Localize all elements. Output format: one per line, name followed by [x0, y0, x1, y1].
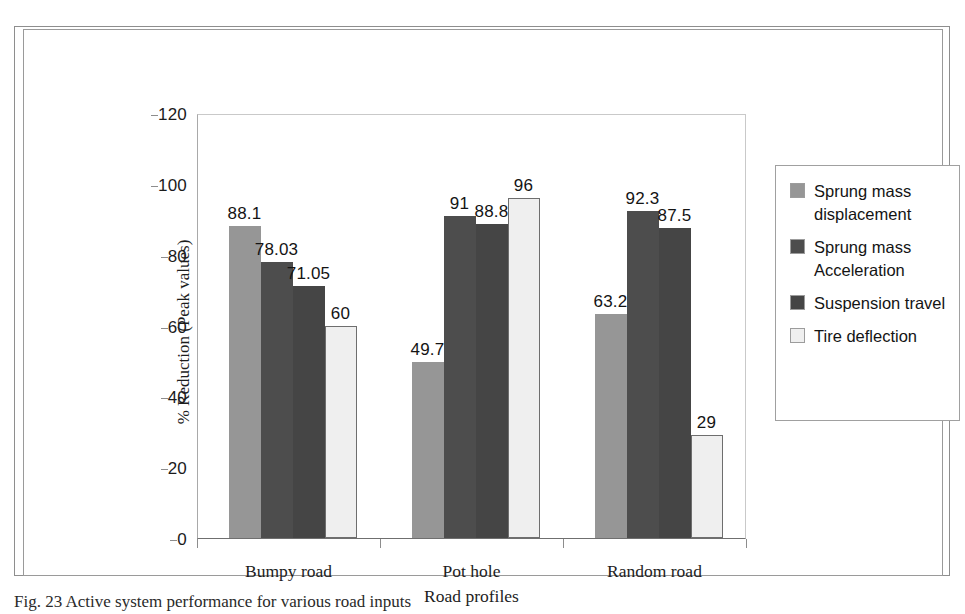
x-axis: Bumpy roadPot holeRandom road: [197, 539, 746, 585]
bar-value-label: 78.03: [255, 240, 299, 260]
legend-label: Sprung mass Acceleration: [814, 236, 949, 282]
legend-swatch-icon: [790, 183, 805, 198]
bar-value-label: 91: [450, 194, 469, 214]
x-axis-tick-mark: [197, 539, 198, 548]
bar-value-label: 71.05: [287, 264, 331, 284]
y-axis-tick-mark: [161, 328, 168, 329]
legend-item: Suspension travel: [790, 292, 949, 315]
bar: 88.1: [229, 226, 261, 538]
bar: 71.05: [293, 286, 325, 538]
bar: 96: [508, 198, 540, 538]
legend-item: Sprung mass displacement: [790, 180, 949, 226]
legend-item: Tire deflection: [790, 325, 949, 348]
bar: 29: [691, 435, 723, 538]
bar-value-label: 88.8: [475, 202, 509, 222]
bar-value-label: 88.1: [228, 204, 262, 224]
y-axis-tick-mark: [161, 257, 168, 258]
x-axis-tick-mark: [746, 539, 747, 548]
bar-value-label: 29: [697, 413, 716, 433]
y-axis-tick-label: 100: [158, 176, 198, 196]
x-axis-category-label: Pot hole: [443, 561, 501, 582]
y-axis-tick-label: 60: [168, 318, 198, 338]
y-axis-tick-label: 80: [168, 247, 198, 267]
bar-chart: % Reduction (Peak values) 02040608010012…: [54, 62, 959, 602]
y-axis-tick-mark: [151, 115, 158, 116]
x-axis-category-label: Random road: [607, 561, 702, 582]
y-axis-tick-mark: [151, 186, 158, 187]
legend-swatch-icon: [790, 239, 805, 254]
legend-label: Tire deflection: [814, 325, 917, 348]
bar-value-label: 92.3: [626, 189, 660, 209]
bar-value-label: 63.2: [594, 292, 628, 312]
y-axis-tick-mark: [161, 469, 168, 470]
legend-swatch-icon: [790, 328, 805, 343]
figure-caption: Fig. 23 Active system performance for va…: [14, 592, 954, 612]
y-axis-tick-label: 40: [168, 388, 198, 408]
bar: 78.03: [261, 262, 293, 538]
bar: 87.5: [659, 228, 691, 538]
chart-legend: Sprung mass displacementSprung mass Acce…: [775, 165, 960, 421]
figure-inner-border: % Reduction (Peak values) 02040608010012…: [23, 29, 943, 576]
legend-swatch-icon: [790, 295, 805, 310]
bar-value-label: 60: [331, 304, 350, 324]
bar: 92.3: [627, 211, 659, 538]
y-axis-tick-label: 0: [177, 530, 198, 550]
x-axis-tick-mark: [380, 539, 381, 548]
bar-value-label: 96: [514, 176, 533, 196]
bar: 88.8: [476, 224, 508, 539]
y-axis-tick-label: 120: [158, 105, 198, 125]
bar-value-label: 49.7: [411, 340, 445, 360]
y-axis-tick-mark: [161, 398, 168, 399]
legend-label: Sprung mass displacement: [814, 180, 949, 226]
bar: 49.7: [412, 362, 444, 538]
y-axis-tick-label: 20: [168, 459, 198, 479]
bar: 63.2: [595, 314, 627, 538]
bar: 60: [325, 326, 357, 539]
y-axis-tick-mark: [170, 540, 177, 541]
x-axis-tick-mark: [563, 539, 564, 548]
x-axis-category-label: Bumpy road: [245, 561, 332, 582]
bar-value-label: 87.5: [658, 206, 692, 226]
plot-area: 020406080100120 88.178.0371.056049.79188…: [197, 114, 746, 539]
bar: 91: [444, 216, 476, 538]
legend-item: Sprung mass Acceleration: [790, 236, 949, 282]
legend-label: Suspension travel: [814, 292, 945, 315]
